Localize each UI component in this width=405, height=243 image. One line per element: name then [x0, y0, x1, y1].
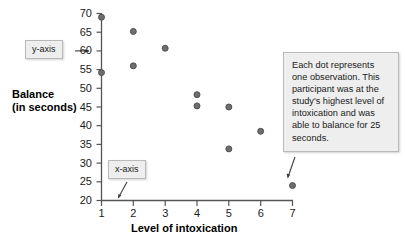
x-tick-label-2: 2: [126, 208, 140, 219]
data-point: [290, 183, 296, 189]
x-tick-label-4: 4: [190, 208, 204, 219]
y-tick-label-55: 55: [70, 64, 92, 75]
y-tick-label-70: 70: [70, 8, 92, 19]
y-tick-label-60: 60: [70, 45, 92, 56]
y-axis-title-line-2: (in seconds): [12, 101, 77, 114]
data-point: [226, 104, 232, 110]
y-tick-label-40: 40: [70, 120, 92, 131]
data-point: [194, 103, 200, 109]
x-axis-annotation-arrow: [118, 182, 127, 199]
data-point: [130, 63, 136, 69]
x-axis-annotation-box: x-axis: [108, 160, 146, 179]
x-tick-label-5: 5: [222, 208, 236, 219]
x-tick-label-7: 7: [286, 208, 300, 219]
data-point: [162, 45, 168, 51]
data-point: [194, 92, 200, 98]
y-axis-title: Balance (in seconds): [12, 88, 77, 114]
x-tick-label-1: 1: [95, 208, 109, 219]
x-axis-ticks: [102, 201, 293, 207]
x-tick-label-3: 3: [158, 208, 172, 219]
data-point: [258, 128, 264, 134]
y-axis-annotation-box: y-axis: [25, 40, 63, 59]
y-tick-label-65: 65: [70, 27, 92, 38]
data-point: [99, 70, 105, 76]
y-tick-label-20: 20: [70, 195, 92, 206]
y-axis-title-line-1: Balance: [12, 88, 77, 101]
data-point: [99, 14, 105, 20]
y-tick-label-30: 30: [70, 158, 92, 169]
x-axis-title: Level of intoxication: [131, 222, 237, 234]
y-axis-ticks: [97, 14, 102, 201]
y-tick-label-25: 25: [70, 176, 92, 187]
observation-note-box: Each dot represents one observation. Thi…: [283, 52, 399, 152]
data-point: [130, 28, 136, 34]
scatter-plot-figure: 20 25 30 35 40 45 50 55 60 65 70 1 2 3 4…: [0, 0, 405, 243]
y-tick-label-35: 35: [70, 139, 92, 150]
x-tick-label-6: 6: [254, 208, 268, 219]
data-point: [226, 146, 232, 152]
note-annotation-arrow: [287, 157, 295, 179]
